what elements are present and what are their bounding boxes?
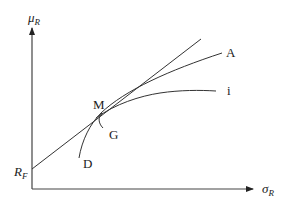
risk-free-label: RF bbox=[14, 165, 27, 181]
tangency-point-label: M bbox=[93, 98, 105, 111]
indifference-curve-label: i bbox=[227, 84, 231, 97]
line-a-label: A bbox=[226, 46, 235, 59]
indifference-curve bbox=[96, 90, 216, 118]
diagram-canvas bbox=[0, 0, 290, 211]
x-axis-label: σR bbox=[262, 182, 274, 198]
g-curve-label: G bbox=[109, 128, 118, 141]
y-axis-label: μR bbox=[28, 11, 40, 27]
capital-market-line bbox=[32, 39, 201, 169]
frontier-d-label: D bbox=[83, 157, 92, 170]
